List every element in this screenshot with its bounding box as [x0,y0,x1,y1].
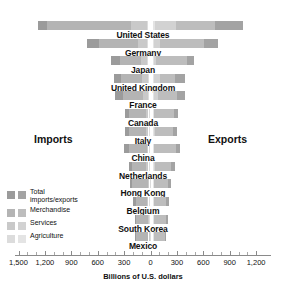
import-segment-agriculture [149,162,150,171]
legend-swatch-export [18,222,26,230]
axis-title: Billions of U.S. dollars [0,272,286,281]
chart-row: Japan [0,56,286,74]
axis-tick-label: 600 [197,258,210,267]
import-segment-agriculture [150,179,151,188]
export-segment-agriculture [153,179,154,188]
legend-swatch-import [7,191,15,199]
export-segment-agriculture [153,197,154,206]
import-segment-services [147,197,148,206]
export-segment-merchandise [153,144,176,153]
legend-label: Agriculture [30,232,94,240]
axis-tick-major [19,251,20,255]
axis-tick-label: 0 [148,258,152,267]
chart-row: Germany [0,39,286,57]
legend-swatch-import [7,209,15,217]
axis-tick-minor [195,252,196,255]
axis-tick-major [45,251,46,255]
legend-label: Services [30,219,94,227]
export-segment-merchandise [153,162,171,171]
trade-chart: United StatesGermanyJapanUnited KingdomF… [0,0,286,289]
export-segment-merchandise [153,215,166,224]
bar-group [0,39,286,48]
legend-item: Agriculture [7,233,93,246]
export-segment-services [153,39,160,48]
axis-tick-minor [186,252,187,255]
chart-row: France [0,91,286,109]
legend-swatch-import [7,235,15,243]
export-segment-agriculture [153,91,154,100]
legend-swatch-export [18,191,26,199]
chart-legend: Total imports/exportsMerchandiseServices… [7,189,93,246]
import-segment-merchandise [129,144,149,153]
axis-tick-label: 300 [118,258,131,267]
bar-group [0,91,286,100]
axis-tick-minor [27,252,28,255]
axis-tick-major [98,251,99,255]
export-segment-agriculture [153,109,154,118]
chart-row: United States [0,21,286,39]
export-segment-agriculture [153,215,154,224]
import-segment-agriculture [150,232,151,241]
axis-tick-label: 300 [171,258,184,267]
axis-tick-minor [142,252,143,255]
axis-tick-minor [168,252,169,255]
bar-group [0,21,286,30]
axis-tick-minor [239,252,240,255]
axis-line [15,255,271,256]
import-segment-services [146,109,148,118]
import-segment-services [142,74,148,83]
imports-side-label: Imports [34,133,73,145]
import-segment-agriculture [149,197,150,206]
export-segment-merchandise [153,127,173,136]
export-segment-merchandise [153,232,165,241]
axis-tick-label: 600 [91,258,104,267]
axis-tick-minor [107,252,108,255]
legend-swatch-import [7,222,15,230]
bar-group [0,109,286,118]
axis-tick-major [230,251,231,255]
axis-tick-minor [212,252,213,255]
export-segment-services [153,21,176,30]
export-segment-merchandise [153,109,174,118]
axis-tick-major [256,251,257,255]
import-segment-merchandise [136,232,148,241]
chart-row: United Kingdom [0,74,286,92]
import-segment-agriculture [149,127,150,136]
import-segment-merchandise [136,215,148,224]
import-segment-agriculture [147,56,148,65]
export-segment-agriculture [153,56,154,65]
import-segment-agriculture [149,109,150,118]
axis-tick-minor [36,252,37,255]
import-segment-services [146,127,148,136]
import-segment-services [147,144,148,153]
axis-tick-minor [221,252,222,255]
axis-tick-major [177,251,178,255]
axis-tick-major [71,251,72,255]
import-segment-services [146,162,148,171]
import-segment-services [131,21,148,30]
bar-group [0,162,286,171]
axis-tick-minor [115,252,116,255]
axis-tick-label: 1,200 [247,258,266,267]
legend-swatch-export [18,209,26,217]
export-segment-agriculture [153,144,154,153]
export-segment-agriculture [153,39,154,48]
import-segment-services [143,91,148,100]
import-segment-agriculture [147,39,148,48]
export-segment-services [153,74,160,83]
x-axis: Billions of U.S. dollars 1,5001,20090060… [0,250,286,289]
chart-row: Netherlands [0,162,286,180]
axis-tick-minor [54,252,55,255]
exports-side-label: Exports [208,133,247,145]
export-segment-agriculture [153,21,155,30]
legend-swatch-export [18,235,26,243]
axis-tick-major [151,251,152,255]
import-segment-agriculture [147,21,148,30]
axis-tick-label: 1,500 [9,258,28,267]
bar-group [0,56,286,65]
import-segment-merchandise [132,179,148,188]
legend-item: Total imports/exports [7,189,93,207]
legend-label: Total imports/exports [30,188,94,204]
import-segment-agriculture [149,144,150,153]
bar-group [0,74,286,83]
